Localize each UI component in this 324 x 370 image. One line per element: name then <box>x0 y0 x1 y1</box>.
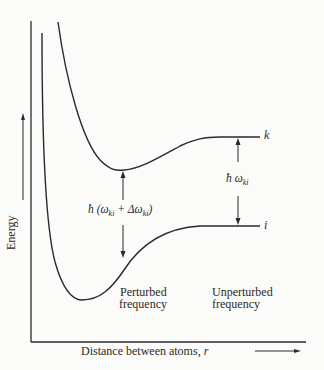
lower-potential-curve <box>42 33 260 300</box>
unperturbed-arrowhead-up-icon <box>236 138 241 145</box>
unperturbed-arrowhead-down-icon <box>236 218 241 225</box>
state-i-label: i <box>264 219 267 232</box>
perturbed-arrowhead-up-icon <box>121 171 126 178</box>
unperturbed-energy-label: ħ ωki <box>226 172 249 189</box>
y-axis-label: Energy <box>4 216 19 250</box>
hbar-omega-term: ħ ω <box>226 172 243 184</box>
omega-subscript: ki <box>243 178 249 187</box>
upper-potential-curve <box>58 22 260 170</box>
x-axis-label: Distance between atoms, r <box>81 345 208 358</box>
hbar-symbol: ħ <box>88 203 94 215</box>
state-k-label: k <box>264 129 269 142</box>
perturbed-caption-line2: frequency <box>119 298 167 311</box>
delta-omega-term: + Δω <box>114 203 142 215</box>
unperturbed-caption-line2: frequency <box>212 298 260 311</box>
x-axis-label-text: Distance between atoms, <box>81 344 204 358</box>
omega-term: (ω <box>97 203 109 215</box>
energy-arrowhead-icon <box>21 113 25 120</box>
x-axis-variable: r <box>204 344 209 358</box>
distance-arrowhead-icon <box>294 349 301 353</box>
potential-energy-diagram <box>0 0 324 370</box>
perturbed-arrowhead-down-icon <box>121 251 126 258</box>
close-paren: ) <box>149 203 153 215</box>
perturbed-energy-label: ħ (ωki + Δωki) <box>88 203 152 220</box>
